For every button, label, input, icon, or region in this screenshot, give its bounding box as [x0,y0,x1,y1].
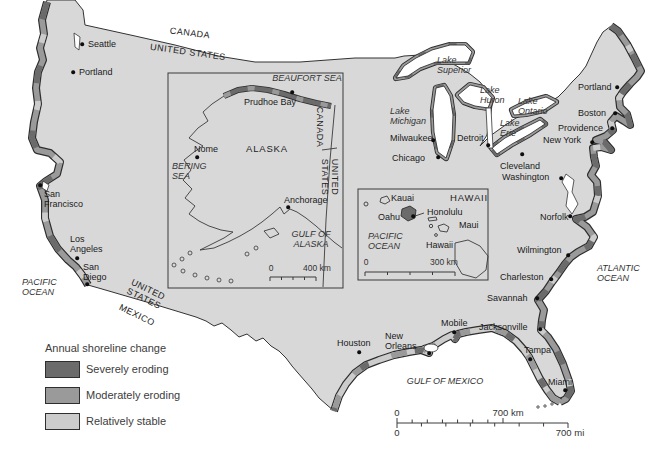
city-label-miami: Miami [548,377,572,387]
legend-title: Annual shoreline change [45,342,180,354]
city-dot-san-diego [85,282,89,286]
region-label-hawaii: HAWAII [450,193,488,204]
city-dot-charleston [549,277,553,281]
city-dot-providence [610,126,614,130]
region-label-maui: Maui [459,220,479,230]
city-label-honolulu: Honolulu [427,207,463,217]
city-dot-washington [559,176,563,180]
city-dot-savannah [535,296,539,300]
city-dot-norfolk [568,214,572,218]
city-label-tampa: Tampa [524,345,551,355]
sea-label-atlantic-ocean: ATLANTIC OCEAN [597,263,640,283]
legend-label: Moderately eroding [86,389,180,401]
hawaii-scale-zero: 0 [364,257,369,267]
legend-swatch-severe [45,361,80,378]
main-scale-zero-mi: 0 [394,427,399,438]
city-dot-miami [563,388,567,392]
sea-label-pacific-ocean: PACIFIC OCEAN [22,277,57,297]
city-dot-seattle [80,42,84,46]
sea-label-lake-erie: Lake Erie [500,118,520,138]
city-label-boston: Boston [578,108,606,118]
city-dot-los-angeles [75,256,79,260]
lake-michigan [433,86,453,158]
region-label-kauai: Kauai [391,193,414,203]
city-label-chicago: Chicago [392,153,425,163]
legend: Annual shoreline change Severely eroding… [45,342,180,439]
sea-label-lake-huron: Lake Huron [480,85,505,105]
city-label-anchorage: Anchorage [284,195,328,205]
legend-swatch-stable [45,413,80,430]
region-label-alaska: ALASKA [246,144,288,155]
sea-label-pacific-ocean: PACIFIC OCEAN [368,231,403,251]
legend-item-severely-eroding: Severely eroding [45,361,180,377]
city-label-savannah: Savannah [487,293,528,303]
city-label-prudhoe-bay: Prudhoe Bay [244,97,296,107]
city-label-san-diego: San Diego [83,262,107,282]
city-label-seattle: Seattle [88,39,116,49]
city-dot-portland [71,70,75,74]
city-label-new-orleans: New Orleans [385,331,417,351]
sea-label-lake-michigan: Lake Michigan [390,106,426,126]
main-scale-mi-label: 700 mi [556,427,585,438]
city-label-wilmington: Wilmington [517,245,562,255]
city-dot-wilmington [566,253,570,257]
region-label-oahu: Oahu [378,212,400,222]
hawaii-scale-label: 300 km [430,257,458,267]
city-dot-tampa [528,357,532,361]
city-dot-new-york [590,140,594,144]
city-label-houston: Houston [337,338,371,348]
legend-label: Relatively stable [86,415,166,427]
legend-swatch-moderate [45,387,80,404]
florida-keys [537,403,554,409]
city-label-providence: Providence [558,123,603,133]
sea-label-beaufort-sea: BEAUFORT SEA [272,73,341,83]
city-dot-cleveland [520,152,524,156]
sea-label-lake-superior: Lake Superior [437,55,471,75]
sea-label-bering-sea: BERING SEA [172,161,207,181]
city-dot-detroit [486,143,490,147]
city-label-washington: Washington [502,172,549,182]
city-dot-mobile [452,330,456,334]
city-label-portland: Portland [578,82,612,92]
legend-items: Severely erodingModerately erodingRelati… [45,361,180,429]
sea-label-gulf-of-alaska: GULF OF ALASKA [292,229,331,249]
city-label-los-angeles: Los Angeles [70,234,103,254]
city-label-portland: Portland [79,67,113,77]
city-label-new-york: New York [543,135,581,145]
city-dot-anchorage [286,205,290,209]
sea-label-lake-ontario: Lake Ontario [518,96,548,116]
city-label-norfolk: Norfolk [540,212,569,222]
lake-pontchartrain [424,344,438,352]
city-label-nome: Nome [194,144,218,154]
city-dot-portland [615,85,619,89]
city-dot-jacksonville [538,327,542,331]
city-dot-new-orleans [427,351,431,355]
city-label-cleveland: Cleveland [500,161,540,171]
city-label-milwaukee: Milwaukee [390,133,433,143]
legend-item-relatively-stable: Relatively stable [45,413,180,429]
region-label-hawaii: Hawaii [426,240,453,250]
city-dot-honolulu [411,214,415,218]
border-label-canada: CANADA [315,107,325,148]
city-dot-chicago [436,155,440,159]
city-dot-houston [357,350,361,354]
city-dot-boston [613,111,617,115]
city-label-san-francisco: San Francisco [44,189,83,209]
main-scale-bar: 0 700 km 0 700 mi [394,407,584,438]
city-dot-prudhoe-bay [290,90,294,94]
alaska-scale-zero: 0 [269,263,274,273]
city-dot-nome [195,155,199,159]
sea-label-gulf-of-mexico: GULF OF MEXICO [407,376,484,386]
main-scale-km-label: 700 km [492,407,523,418]
border-label-united-states: UNITED STATES [320,159,340,196]
city-label-charleston: Charleston [500,272,544,282]
legend-item-moderately-eroding: Moderately eroding [45,387,180,403]
city-label-detroit: Detroit [457,133,484,143]
legend-label: Severely eroding [86,363,169,375]
city-dot-milwaukee [431,138,435,142]
alaska-scale-label: 400 km [303,263,331,273]
shoreline-map: 0 400 km 0 300 km 0 700 km 0 [0,0,667,449]
city-dot-san-francisco [38,183,42,187]
city-label-mobile: Mobile [441,318,468,328]
city-label-jacksonville: Jacksonville [479,322,528,332]
